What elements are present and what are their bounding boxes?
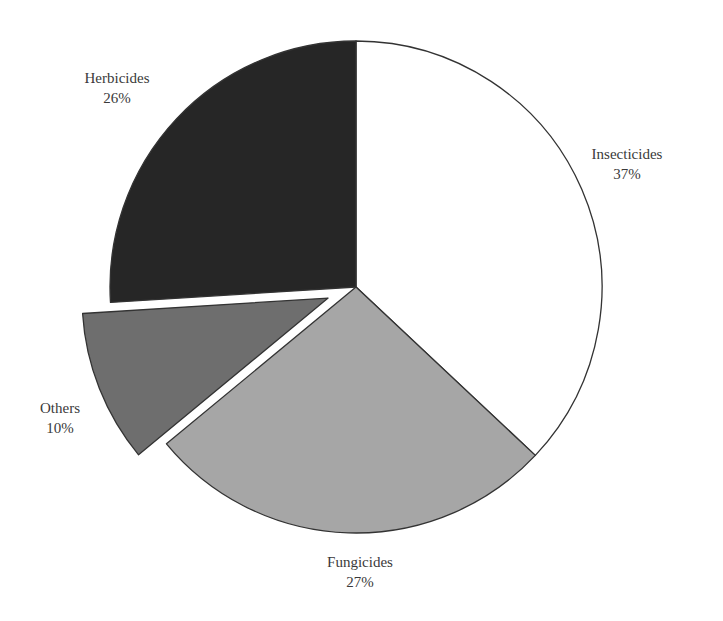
label-herbicides: Herbicides 26% (62, 68, 172, 108)
label-fungicides: Fungicides 27% (305, 552, 415, 592)
label-others-name: Others (25, 398, 95, 418)
label-others-pct: 10% (25, 418, 95, 438)
label-fungicides-name: Fungicides (305, 552, 415, 572)
label-insecticides-name: Insecticides (572, 144, 682, 164)
label-herbicides-name: Herbicides (62, 68, 172, 88)
label-herbicides-pct: 26% (62, 88, 172, 108)
label-insecticides-pct: 37% (572, 164, 682, 184)
label-others: Others 10% (25, 398, 95, 438)
label-fungicides-pct: 27% (305, 572, 415, 592)
label-insecticides: Insecticides 37% (572, 144, 682, 184)
